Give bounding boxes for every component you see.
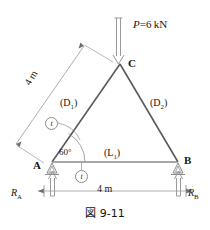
truss-figure: P=6 kN C A B (D1) (D2) (L1) 60° 4 m 4 m … — [0, 0, 210, 230]
dimension-label-base: 4 m — [97, 184, 112, 194]
load-label: P=6 kN — [133, 19, 167, 30]
tension-marker-1: t — [45, 117, 58, 130]
node-label-a: A — [33, 160, 41, 171]
member-d2-close: ) — [164, 97, 167, 108]
tension-marker-2: t — [75, 170, 88, 183]
figure-caption: 図 9-11 — [0, 208, 210, 219]
load-symbol: P — [133, 18, 140, 30]
reaction-label-a: RA — [11, 188, 22, 201]
reaction-a-subscript: A — [17, 193, 22, 200]
member-d2-line — [120, 64, 178, 162]
truss-diagram-canvas — [0, 0, 210, 230]
angle-label: 60° — [59, 148, 72, 157]
node-label-c: C — [128, 58, 136, 69]
member-d2-open: (D — [150, 97, 161, 108]
member-label-d1: (D1) — [60, 98, 77, 111]
load-value: 6 — [146, 18, 152, 30]
dimension-base — [38, 185, 192, 197]
load-arrow-icon — [113, 18, 124, 64]
member-d1-open: (D — [60, 97, 71, 108]
member-label-d2: (D2) — [150, 98, 167, 111]
reaction-label-b: RB — [188, 188, 199, 201]
reaction-b-subscript: B — [194, 193, 199, 200]
member-label-l1: (L1) — [104, 148, 120, 161]
node-label-b: B — [184, 155, 191, 166]
member-d1-close: ) — [74, 97, 77, 108]
member-l1-close: ) — [117, 147, 120, 158]
load-unit: kN — [154, 18, 167, 30]
